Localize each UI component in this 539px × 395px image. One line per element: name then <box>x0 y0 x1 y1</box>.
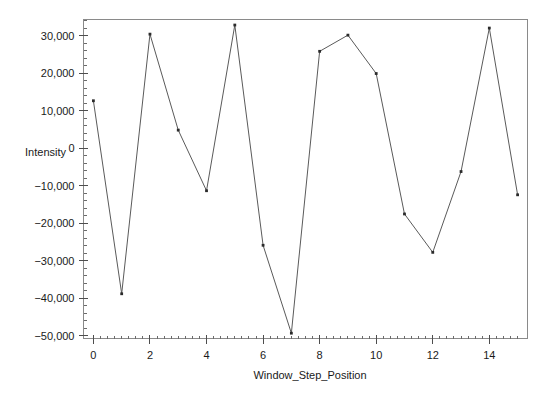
y-tick-label-3: 0 <box>68 142 74 154</box>
x-tick-label-6: 12 <box>427 349 439 361</box>
data-point-7 <box>290 332 293 335</box>
x-tick-label-4: 8 <box>317 349 323 361</box>
plot-border <box>84 20 528 339</box>
chart-container: 30,00020,00010,0000−10,000−20,000−30,000… <box>0 0 539 395</box>
data-point-0 <box>92 99 95 102</box>
data-point-10 <box>375 72 378 75</box>
data-point-15 <box>516 193 519 196</box>
x-axis-title: Window_Step_Position <box>253 369 366 381</box>
x-tick-label-3: 6 <box>260 349 266 361</box>
data-point-6 <box>262 244 265 247</box>
x-tick-label-2: 4 <box>203 349 209 361</box>
data-point-12 <box>431 251 434 254</box>
data-point-13 <box>460 170 463 173</box>
x-tick-label-7: 14 <box>483 349 495 361</box>
data-point-4 <box>205 189 208 192</box>
x-tick-label-5: 10 <box>370 349 382 361</box>
y-tick-label-6: −30,000 <box>34 255 74 267</box>
data-point-1 <box>120 292 123 295</box>
data-point-5 <box>233 24 236 27</box>
data-point-9 <box>347 34 350 37</box>
y-tick-label-5: −20,000 <box>34 217 74 229</box>
y-tick-label-8: −50,000 <box>34 330 74 342</box>
y-axis-title: Intensity <box>25 146 66 158</box>
data-series-intensity <box>92 24 519 335</box>
data-point-11 <box>403 213 406 216</box>
y-tick-label-4: −10,000 <box>34 180 74 192</box>
x-axis-tick-labels: 02468101214 <box>90 349 495 361</box>
x-tick-label-0: 0 <box>90 349 96 361</box>
data-point-3 <box>177 129 180 132</box>
data-point-2 <box>149 33 152 36</box>
y-tick-label-7: −40,000 <box>34 292 74 304</box>
x-tick-label-1: 2 <box>147 349 153 361</box>
y-tick-label-0: 30,000 <box>41 30 75 42</box>
y-tick-label-2: 10,000 <box>41 105 75 117</box>
series-line-intensity <box>93 25 517 333</box>
y-tick-label-1: 20,000 <box>41 67 75 79</box>
data-point-8 <box>318 50 321 53</box>
plot-frame <box>84 20 528 339</box>
data-point-14 <box>488 27 491 30</box>
series-markers-intensity <box>92 24 519 335</box>
y-axis-tick-labels: 30,00020,00010,0000−10,000−20,000−30,000… <box>34 30 74 342</box>
line-chart: 30,00020,00010,0000−10,000−20,000−30,000… <box>0 0 539 395</box>
